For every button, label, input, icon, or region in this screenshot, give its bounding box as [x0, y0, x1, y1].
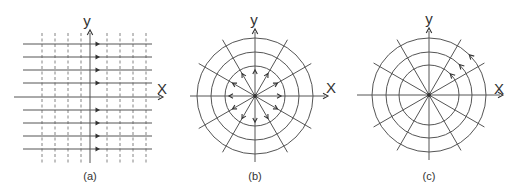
panel-b-source-flow: [190, 29, 328, 162]
radial-streamline: [199, 96, 255, 129]
radial-streamline: [255, 96, 288, 152]
radial-equipotential-line: [429, 95, 484, 127]
panel-b-y-axis-label: y: [250, 12, 258, 27]
radial-equipotential-line: [374, 63, 429, 95]
flow-direction-arrow-icon: [96, 134, 101, 139]
radial-streamline: [223, 96, 256, 152]
panel-c-caption: (c): [423, 171, 436, 182]
radial-equipotential-line: [429, 40, 461, 95]
flow-diagram-figure: [0, 0, 520, 189]
flow-direction-arrow-icon: [96, 147, 101, 152]
panel-b-x-axis-label: X: [326, 80, 336, 95]
radial-equipotential-line: [397, 95, 429, 150]
radial-equipotential-line: [429, 95, 461, 150]
radial-streamline: [255, 96, 311, 129]
panel-c-y-axis-label: y: [425, 11, 433, 26]
panel-a-caption: (a): [83, 171, 96, 182]
flow-direction-arrow-icon: [96, 121, 101, 126]
flow-direction-arrow-icon: [96, 108, 101, 113]
radial-equipotential-line: [397, 40, 429, 95]
panel-a-uniform-flow: [14, 30, 163, 165]
panel-c-x-axis-label: X: [494, 81, 504, 96]
radial-equipotential-line: [429, 63, 484, 95]
radial-streamline: [223, 40, 256, 96]
source-point: [253, 94, 257, 98]
flow-direction-arrow-icon: [96, 68, 101, 73]
flow-direction-arrow-icon: [96, 42, 101, 47]
vortex-center-point: [427, 93, 431, 97]
flow-direction-arrow-icon: [96, 81, 101, 86]
panel-a-y-axis-label: y: [83, 13, 91, 28]
radial-equipotential-line: [374, 95, 429, 127]
radial-streamline: [199, 64, 255, 97]
radial-streamline: [255, 64, 311, 97]
panel-a-x-axis-label: X: [157, 81, 167, 96]
flow-direction-arrow-icon: [96, 55, 101, 60]
radial-streamline: [255, 40, 288, 96]
panel-b-caption: (b): [248, 171, 261, 182]
panel-c-vortex-flow: [357, 28, 503, 160]
